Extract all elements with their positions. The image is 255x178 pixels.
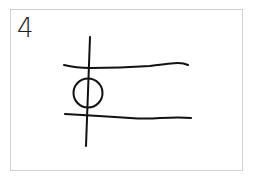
bottom-horizontal-line	[65, 114, 191, 119]
top-horizontal-line	[64, 63, 188, 68]
vertical-line	[86, 37, 90, 146]
sketch-drawing	[0, 0, 255, 178]
